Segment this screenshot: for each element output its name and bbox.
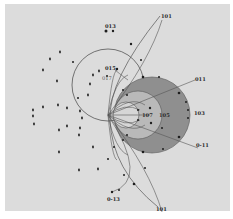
pole-dot: [58, 129, 60, 132]
label-101-top: 101: [161, 13, 172, 19]
pole-dot: [32, 115, 34, 118]
pole-dot: [98, 70, 100, 73]
pole-dot: [78, 134, 80, 137]
pole-dot: [79, 110, 81, 113]
pole-dot: [97, 168, 99, 171]
label-105: 105: [159, 112, 170, 118]
pole-dot: [81, 117, 83, 120]
pole-dot: [92, 146, 94, 149]
pole-dot: [57, 104, 59, 107]
pole-dot: [49, 58, 51, 61]
pole-dot: [56, 80, 58, 83]
label-101-bottom: 101: [156, 206, 167, 212]
pole-dot: [33, 123, 35, 126]
label-107: 107: [142, 112, 153, 118]
label-0-11: 0-11: [196, 142, 209, 148]
pole-dot: [87, 94, 89, 97]
label-0-13: 0-13: [107, 196, 120, 202]
label-011: 011: [195, 76, 206, 82]
pole-dot: [32, 109, 34, 112]
pole-dot: [78, 169, 80, 172]
pole-dot: [66, 125, 68, 128]
pole-dot: [42, 69, 44, 72]
label-103: 103: [194, 110, 205, 116]
pole-dot: [42, 106, 44, 109]
pole-dot: [66, 107, 68, 110]
pole-dot: [79, 127, 81, 130]
label-015: 015: [105, 65, 116, 71]
label-017: 017: [102, 75, 112, 81]
pole-dot: [58, 151, 60, 154]
label-013: 013: [105, 23, 116, 29]
pole-dot: [89, 83, 91, 86]
pole-dot: [59, 51, 61, 54]
pole-dot: [92, 74, 94, 77]
stereographic-projection-figure: 101 013 015 017 011 103 107 105 0-11 0-1…: [0, 0, 233, 219]
